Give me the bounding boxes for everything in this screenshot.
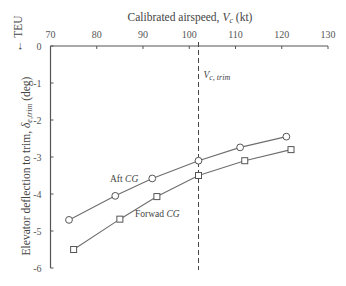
series-label-0: Aft CG xyxy=(110,174,138,184)
y-tick-label: -3 xyxy=(33,152,41,163)
chart: Calibrated airspeed, Vc (kt) ← TEU Eleva… xyxy=(0,0,346,286)
x-tick-label: 80 xyxy=(92,29,102,40)
square-marker xyxy=(154,194,160,200)
square-marker xyxy=(242,158,248,164)
square-marker xyxy=(288,147,294,153)
series-line-0 xyxy=(69,137,286,220)
circle-marker xyxy=(149,175,156,182)
circle-marker xyxy=(66,217,73,224)
square-marker xyxy=(196,173,202,179)
teu-note: ← TEU xyxy=(12,15,24,52)
trim-speed-label: Vc, trim xyxy=(204,70,231,82)
square-marker xyxy=(117,216,123,222)
square-marker xyxy=(71,247,77,253)
x-tick-label: 70 xyxy=(46,29,56,40)
y-tick-label: -6 xyxy=(33,263,41,274)
circle-marker xyxy=(237,144,244,151)
x-tick-label: 120 xyxy=(274,29,289,40)
x-axis-title: Calibrated airspeed, Vc (kt) xyxy=(128,11,253,25)
circle-marker xyxy=(195,157,202,164)
y-tick-label: -5 xyxy=(33,226,41,237)
circle-marker xyxy=(283,133,290,140)
x-tick-label: 130 xyxy=(321,29,336,40)
x-tick-label: 110 xyxy=(228,29,243,40)
y-tick-label: -1 xyxy=(33,78,41,89)
series-line-1 xyxy=(74,150,291,250)
series-labels: Aft CGForwad CG xyxy=(110,174,180,219)
y-tick-label: -4 xyxy=(33,189,41,200)
circle-marker xyxy=(112,192,119,199)
series-group xyxy=(66,133,294,252)
y-tick-label: 0 xyxy=(37,41,42,52)
axes xyxy=(51,46,329,268)
y-tick-label: -2 xyxy=(33,115,41,126)
x-tick-label: 90 xyxy=(138,29,148,40)
y-axis-title: Elevator deflection to trim, δe,trim (de… xyxy=(20,76,34,255)
series-label-1: Forwad CG xyxy=(135,209,180,219)
x-tick-label: 100 xyxy=(182,29,197,40)
